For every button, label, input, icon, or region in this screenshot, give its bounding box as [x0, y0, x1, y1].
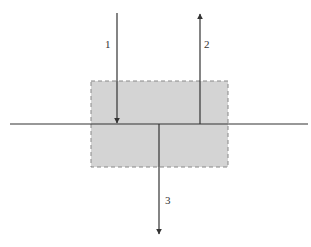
diagram-canvas: 1 2 3: [0, 0, 311, 247]
arrow-3-label: 3: [165, 194, 171, 206]
arrow-2-label: 2: [204, 38, 210, 50]
arrow-1-label: 1: [105, 38, 111, 50]
